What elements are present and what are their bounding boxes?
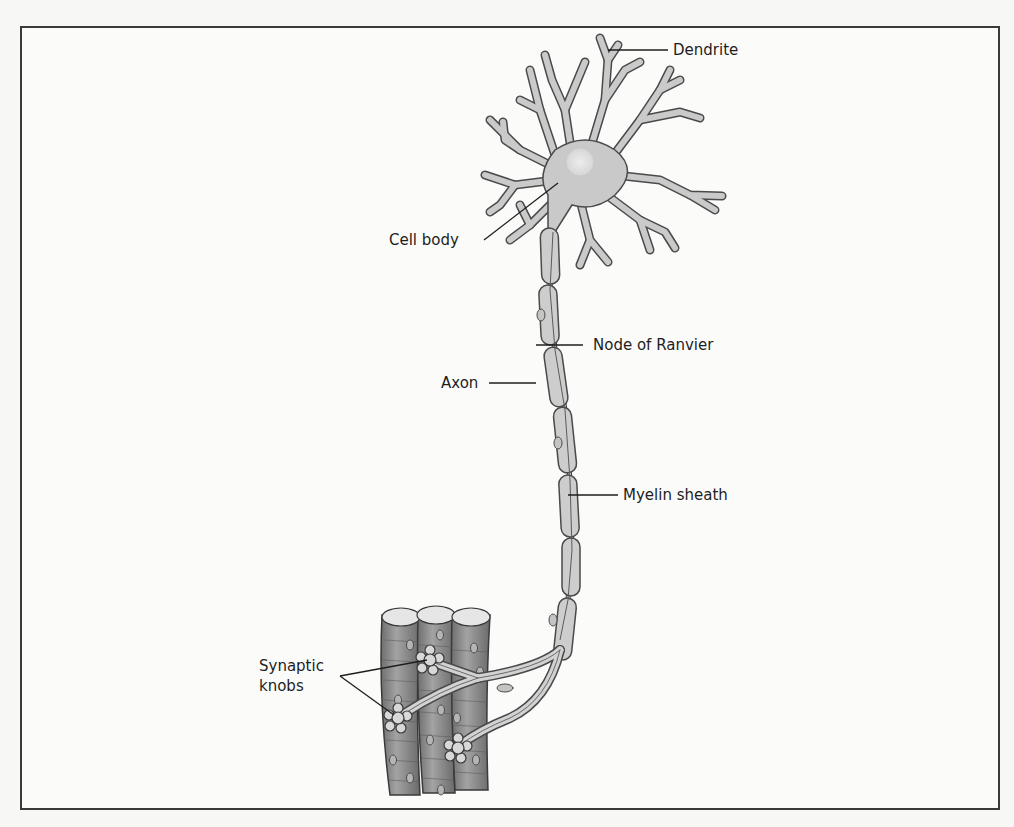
neuron-diagram	[0, 0, 1014, 827]
label-dendrite: Dendrite	[673, 41, 738, 59]
nucleus	[566, 148, 594, 176]
label-myelin-sheath: Myelin sheath	[623, 486, 728, 504]
label-synaptic-knobs: Synaptic knobs	[259, 656, 324, 696]
label-node-of-ranvier: Node of Ranvier	[593, 336, 713, 354]
label-cell-body: Cell body	[389, 231, 459, 249]
axon-myelin	[537, 228, 580, 661]
label-axon: Axon	[441, 374, 478, 392]
